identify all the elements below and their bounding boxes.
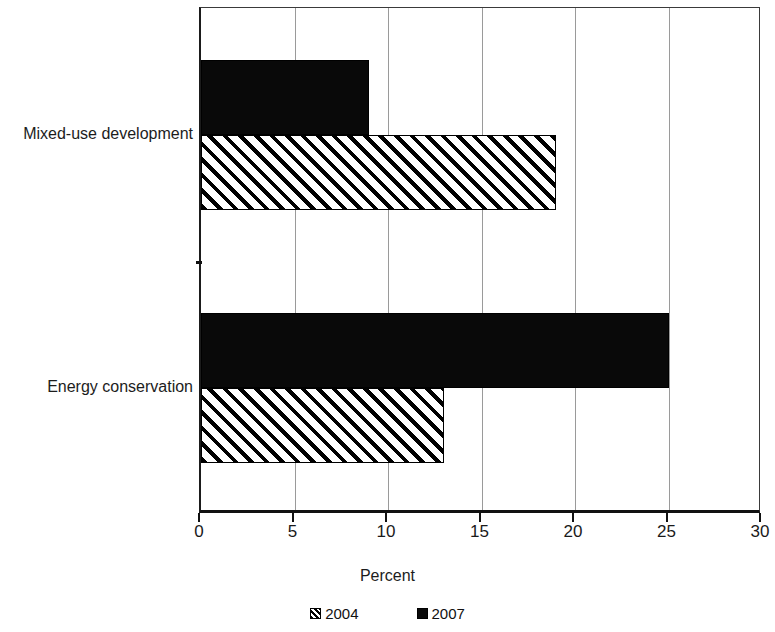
legend-item-2007: 2007 (417, 606, 465, 621)
x-axis-tick-label: 5 (288, 522, 297, 542)
legend-label: 2007 (432, 606, 465, 621)
x-axis-tick-label: 30 (751, 522, 770, 542)
category-label: Energy conservation (47, 378, 193, 396)
bar-chart: Mixed-use developmentEnergy conservation… (0, 0, 775, 632)
x-axis-tick-label: 0 (194, 522, 203, 542)
legend-item-2004: 2004 (310, 606, 358, 621)
gridline (669, 8, 670, 510)
chart-legend: 2004 2007 (0, 606, 775, 621)
bar-2007-0 (201, 60, 369, 135)
plot-area (199, 7, 760, 513)
legend-label: 2004 (325, 606, 358, 621)
x-axis-tick-label: 25 (657, 522, 676, 542)
x-axis-tick (759, 513, 761, 522)
x-axis-tick (198, 513, 200, 522)
x-axis-tick-labels: 051015202530 (199, 522, 760, 546)
gridline (482, 8, 483, 510)
x-axis-tick-label: 10 (377, 522, 396, 542)
x-axis-tick (572, 513, 574, 522)
bar-2007-1 (201, 313, 669, 388)
y-axis-tick (196, 261, 202, 264)
x-axis-tick-label: 20 (564, 522, 583, 542)
category-label: Mixed-use development (23, 125, 193, 143)
bar-2004-1 (201, 388, 444, 463)
x-axis-tick (385, 513, 387, 522)
x-axis-tick (479, 513, 481, 522)
x-axis-tick (666, 513, 668, 522)
gridline (575, 8, 576, 510)
solid-swatch-icon (417, 608, 428, 619)
bar-2004-0 (201, 135, 556, 210)
x-axis-title: Percent (0, 567, 775, 585)
hatch-swatch-icon (310, 608, 321, 619)
x-axis-tick (292, 513, 294, 522)
x-axis-tick-label: 15 (470, 522, 489, 542)
